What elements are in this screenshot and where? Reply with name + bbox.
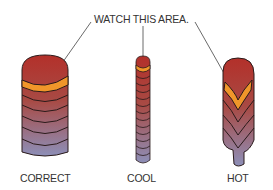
label-hot: HOT [227,172,249,184]
weld-bead-diagram [0,0,273,190]
bead-hot [223,58,254,166]
callout-text: WATCH THIS AREA. [94,13,189,25]
bead-correct [22,55,68,156]
bead-cool [136,56,150,163]
label-cool: COOL [127,172,156,184]
label-correct: CORRECT [20,172,71,184]
